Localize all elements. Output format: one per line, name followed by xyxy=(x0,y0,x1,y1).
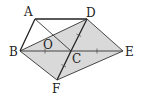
label-d: D xyxy=(86,6,96,20)
label-o: O xyxy=(43,38,53,52)
geometry-diagram: A D B O C E F xyxy=(0,0,141,96)
label-a: A xyxy=(23,5,33,19)
label-b: B xyxy=(9,45,18,59)
label-e: E xyxy=(125,45,134,59)
label-f: F xyxy=(52,82,60,96)
label-c: C xyxy=(72,52,81,66)
